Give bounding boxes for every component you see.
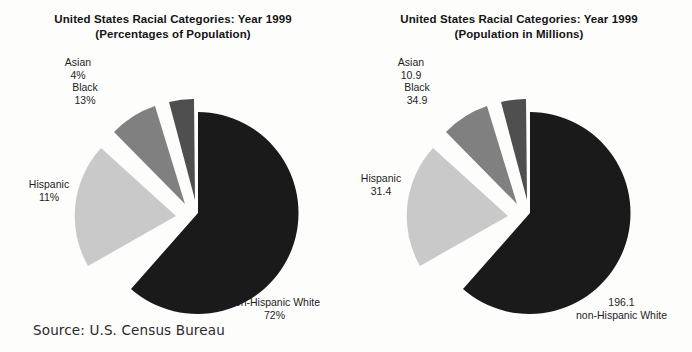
- label-black-millions: Black 34.9: [357, 81, 477, 106]
- label-hispanic-millions: Hispanic 31.4: [326, 172, 436, 197]
- pie-chart-percentages: United States Racial Categories: Year 19…: [0, 0, 346, 352]
- label-asian-name: Asian: [346, 56, 476, 69]
- label-asian-percent: Asian 4%: [13, 56, 143, 81]
- label-black-percent: Black 13%: [25, 81, 145, 106]
- label-white-name: non-Hispanic White: [212, 296, 337, 309]
- label-hispanic-name: Hispanic: [326, 172, 436, 185]
- pie-chart-millions: United States Racial Categories: Year 19…: [346, 0, 692, 352]
- label-black-value: 13%: [25, 94, 145, 107]
- label-hispanic-value: 31.4: [326, 185, 436, 198]
- label-asian-value: 10.9: [346, 69, 476, 82]
- label-black-name: Black: [357, 81, 477, 94]
- label-black-value: 34.9: [357, 94, 477, 107]
- label-hispanic-value: 11%: [0, 191, 104, 204]
- label-white-name: non-Hispanic White: [554, 309, 689, 322]
- label-non-hispanic-white-millions: 196.1 non-Hispanic White: [554, 296, 689, 321]
- label-hispanic-percent: Hispanic 11%: [0, 178, 104, 203]
- label-non-hispanic-white-percent: non-Hispanic White 72%: [212, 296, 337, 321]
- label-hispanic-name: Hispanic: [0, 178, 104, 191]
- label-asian-value: 4%: [13, 69, 143, 82]
- label-white-value-number: 196.1: [554, 296, 689, 309]
- label-black-name: Black: [25, 81, 145, 94]
- label-asian-name: Asian: [13, 56, 143, 69]
- label-white-value: 72%: [212, 309, 337, 322]
- source-note: Source: U.S. Census Bureau: [33, 322, 225, 338]
- label-asian-millions: Asian 10.9: [346, 56, 476, 81]
